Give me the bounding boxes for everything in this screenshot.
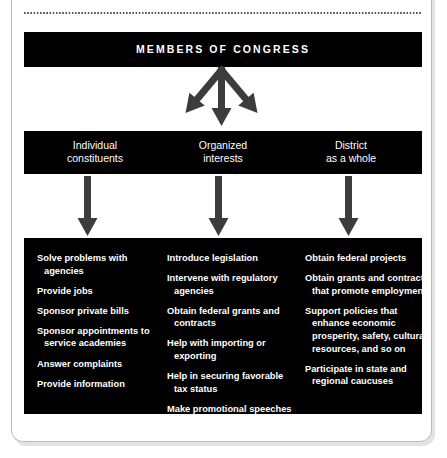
action-item: Sponsor appointments to service academie…: [37, 325, 159, 350]
targets-box: Individual constituents Organized intere…: [24, 131, 422, 174]
action-item: Participate in state and regional caucus…: [305, 363, 433, 388]
figure-heading: THEIR DISTRICTS: [24, 0, 140, 3]
target-individual-constituents: Individual constituents: [36, 139, 154, 165]
action-item: Answer complaints: [37, 358, 159, 371]
action-item: Help in securing favorable tax status: [167, 370, 297, 395]
actions-column-individual-constituents: Solve problems with agenciesProvide jobs…: [37, 252, 159, 390]
members-of-congress-label: MEMBERS OF CONGRESS: [24, 43, 422, 55]
target-organized-interests: Organized interests: [164, 139, 282, 165]
action-item: Provide information: [37, 378, 159, 391]
target-district-as-a-whole: District as a whole: [292, 139, 410, 165]
action-item: Provide jobs: [37, 285, 159, 298]
action-item: Obtain grants and contracts that promote…: [305, 272, 433, 297]
action-item: Obtain federal projects: [305, 252, 433, 265]
action-item: Make promotional speeches and symbolic g…: [167, 403, 297, 428]
members-of-congress-box: MEMBERS OF CONGRESS: [24, 32, 422, 67]
action-item: Solve problems with agencies: [37, 252, 159, 277]
action-item: Introduce legislation: [167, 252, 297, 265]
actions-column-district-as-a-whole: Obtain federal projectsObtain grants and…: [305, 252, 433, 388]
action-item: Sponsor private bills: [37, 305, 159, 318]
action-item: Help with importing or exporting: [167, 337, 297, 362]
action-item: Support policies that enhance economic p…: [305, 305, 433, 355]
actions-column-organized-interests: Introduce legislationIntervene with regu…: [167, 252, 297, 428]
actions-box: Solve problems with agenciesProvide jobs…: [24, 238, 422, 414]
dotted-divider: [24, 12, 422, 14]
action-item: Obtain federal grants and contracts: [167, 305, 297, 330]
action-item: Intervene with regulatory agencies: [167, 272, 297, 297]
